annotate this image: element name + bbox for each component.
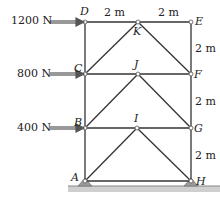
node-label-h: H <box>196 176 206 187</box>
node-label-k: K <box>133 26 141 37</box>
dimension-fg: 2 m <box>195 96 216 107</box>
force-label-1200: 1200 N <box>11 15 52 26</box>
force-label-800: 800 N <box>17 68 51 79</box>
joints <box>83 20 193 183</box>
node-label-g: G <box>194 123 203 134</box>
truss-drawing <box>0 0 220 197</box>
node-label-e: E <box>195 16 203 27</box>
node-label-b: B <box>74 117 82 128</box>
dimension-ef: 2 m <box>195 43 216 54</box>
force-arrows <box>50 18 84 132</box>
node-label-a: A <box>71 172 79 183</box>
node-label-d: D <box>80 6 89 17</box>
dimension-gh: 2 m <box>195 150 216 161</box>
node-label-j: J <box>134 59 138 70</box>
node-label-f: F <box>194 69 202 80</box>
node-label-c: C <box>74 63 82 74</box>
dimension-top-right: 2 m <box>158 7 179 18</box>
force-label-400: 400 N <box>17 122 51 133</box>
truss-members <box>85 22 191 181</box>
dimension-top-left: 2 m <box>104 7 125 18</box>
node-label-i: I <box>134 113 138 124</box>
